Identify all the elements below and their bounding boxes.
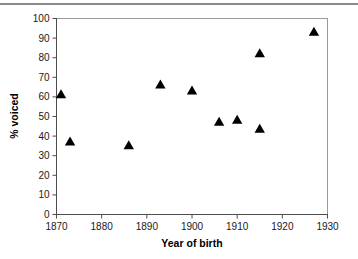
y-tick-label: 20 [38, 170, 50, 181]
y-tick-label: 50 [38, 111, 50, 122]
plot-frame [56, 19, 328, 215]
chart-svg: 0102030405060708090100 18701880189019001… [0, 0, 358, 259]
y-axis: 0102030405060708090100 [33, 13, 57, 220]
y-tick-label: 100 [33, 13, 50, 24]
y-axis-tick-labels: 0102030405060708090100 [33, 13, 50, 220]
y-axis-ticks [53, 19, 57, 215]
y-tick-label: 40 [38, 131, 50, 142]
y-tick-label: 30 [38, 150, 50, 161]
x-axis-title: Year of birth [161, 237, 222, 249]
data-point-marker [124, 140, 134, 149]
data-markers [56, 27, 319, 150]
y-tick-label: 80 [38, 52, 50, 63]
x-tick-label: 1900 [181, 221, 204, 232]
data-point-marker [187, 85, 197, 94]
x-tick-label: 1880 [91, 221, 114, 232]
x-axis-ticks [57, 215, 328, 219]
y-axis-title: % voiced [8, 93, 20, 139]
x-tick-label: 1870 [45, 221, 68, 232]
y-tick-label: 70 [38, 72, 50, 83]
data-point-marker [155, 80, 165, 89]
x-tick-label: 1890 [136, 221, 159, 232]
x-tick-label: 1920 [271, 221, 294, 232]
y-tick-label: 90 [38, 33, 50, 44]
data-point-marker [65, 136, 75, 145]
data-point-marker [255, 124, 265, 133]
x-axis-tick-labels: 1870188018901900191019201930 [45, 221, 339, 232]
y-tick-label: 60 [38, 91, 50, 102]
figure-container: 0102030405060708090100 18701880189019001… [0, 0, 358, 259]
data-point-marker [255, 48, 265, 57]
scatter-plot: 0102030405060708090100 18701880189019001… [0, 0, 358, 259]
data-point-marker [309, 27, 319, 36]
data-point-marker [232, 115, 242, 124]
y-tick-label: 0 [44, 209, 50, 220]
x-axis: 1870188018901900191019201930 [45, 215, 339, 232]
x-tick-label: 1910 [226, 221, 249, 232]
data-point-marker [214, 117, 224, 126]
y-tick-label: 10 [38, 189, 50, 200]
x-tick-label: 1930 [316, 221, 339, 232]
data-point-marker [56, 89, 66, 98]
